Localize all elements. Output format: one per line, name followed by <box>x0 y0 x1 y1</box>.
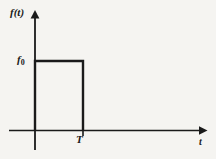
figure-container: f(t) f0 T t <box>0 0 216 159</box>
tick-label-T: T <box>76 134 83 145</box>
rectangular-pulse-plot <box>0 0 216 159</box>
amplitude-label-f0: f0 <box>17 54 25 67</box>
amplitude-subscript: 0 <box>21 58 25 67</box>
y-axis-arrowhead <box>31 10 40 19</box>
pulse-waveform <box>35 61 83 131</box>
x-axis-label: t <box>199 137 202 147</box>
x-axis-arrowhead <box>199 126 208 135</box>
y-axis-label: f(t) <box>10 7 24 18</box>
x-axis <box>9 126 208 135</box>
